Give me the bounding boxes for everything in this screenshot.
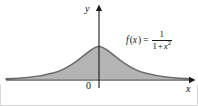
formula-variable: x	[133, 36, 137, 46]
function-formula-annotation: f(x) = 1 1 + x2	[126, 30, 172, 51]
y-axis-label: y	[85, 4, 89, 14]
x-axis-label: x	[186, 84, 190, 94]
formula-fraction: 1 1 + x2	[152, 30, 172, 51]
formula-close-paren: )	[138, 36, 141, 46]
y-axis-arrowhead	[96, 5, 102, 12]
formula-numerator: 1	[155, 30, 168, 40]
formula-denominator-one: 1	[153, 41, 158, 51]
figure-left-border	[0, 84, 1, 106]
figure-bottom-border	[0, 105, 198, 106]
formula-denominator: 1 + x2	[152, 41, 172, 51]
origin-label: 0	[86, 81, 91, 91]
formula-function-name: f	[126, 36, 129, 46]
function-plot	[0, 0, 198, 106]
figure-right-border	[197, 84, 198, 106]
formula-denominator-exponent: 2	[168, 39, 171, 46]
formula-equals-sign: =	[143, 36, 148, 46]
formula-denominator-plus: +	[158, 41, 163, 51]
figure-container: y x 0 f(x) = 1 1 + x2	[0, 0, 198, 106]
